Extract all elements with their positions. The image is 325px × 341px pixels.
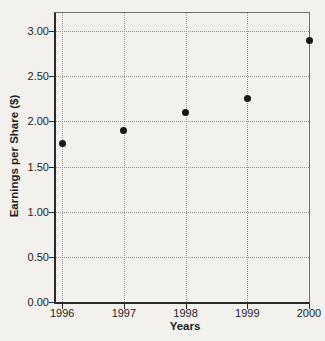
plot-area (54, 12, 310, 304)
scatter-chart: Earnings per Share ($) 0.000.501.001.502… (0, 0, 325, 341)
y-tick (49, 302, 55, 303)
x-tick-label: 1999 (227, 306, 267, 320)
y-tick (49, 167, 55, 168)
x-tick-label: 1997 (104, 306, 144, 320)
y-tick-label: 2.00 (13, 114, 49, 128)
x-grid-line (186, 13, 187, 302)
y-tick-label: 1.50 (13, 160, 49, 174)
data-point (244, 95, 251, 102)
y-tick (49, 76, 55, 77)
y-grid-line (56, 167, 309, 168)
y-tick-label: 2.50 (13, 69, 49, 83)
data-point (182, 109, 189, 116)
y-grid-line (56, 31, 309, 32)
y-tick (49, 257, 55, 258)
x-tick-label: 1998 (166, 306, 206, 320)
y-tick (49, 212, 55, 213)
x-grid-line (62, 13, 63, 302)
y-tick-label: 0.50 (13, 250, 49, 264)
data-point (306, 37, 313, 44)
data-point (120, 127, 127, 134)
x-axis-title: Years (145, 320, 225, 332)
y-tick-label: 1.00 (13, 205, 49, 219)
y-grid-line (56, 212, 309, 213)
y-grid-line (56, 76, 309, 77)
y-tick (49, 121, 55, 122)
x-tick-label: 1996 (42, 306, 82, 320)
x-grid-line (124, 13, 125, 302)
x-grid-line (247, 13, 248, 302)
x-tick-label: 2000 (289, 306, 325, 320)
y-axis-title: Earnings per Share ($) (8, 95, 20, 218)
data-point (59, 140, 66, 147)
y-grid-line (56, 121, 309, 122)
y-tick (49, 31, 55, 32)
y-grid-line (56, 257, 309, 258)
y-tick-label: 3.00 (13, 24, 49, 38)
